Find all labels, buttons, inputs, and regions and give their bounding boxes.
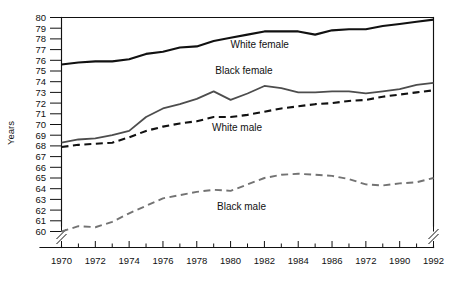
x-tick-label: 1992 (423, 255, 444, 266)
y-axis-tick-marks (50, 18, 62, 232)
x-tick-label: 1982 (254, 255, 275, 266)
series-line-white-male (62, 90, 434, 147)
series-inline-labels: White femaleBlack femaleWhite maleBlack … (212, 39, 289, 212)
y-tick-label: 61 (35, 215, 46, 226)
series-label-white-male: White male (212, 122, 262, 133)
series-line-black-female (62, 83, 434, 143)
y-tick-label: 64 (35, 183, 46, 194)
y-tick-label: 77 (35, 44, 46, 55)
y-tick-label: 60 (35, 226, 46, 237)
series-label-black-male: Black male (217, 201, 266, 212)
x-axis-tick-marks (62, 241, 434, 248)
x-tick-label: 1976 (152, 255, 173, 266)
x-tick-label: 1972 (85, 255, 106, 266)
y-tick-label: 66 (35, 162, 46, 173)
y-tick-label: 79 (35, 23, 46, 34)
chart-canvas: 6061626364656667686970717273747576777879… (0, 0, 461, 283)
series-label-white-female: White female (231, 39, 290, 50)
y-tick-label: 80 (35, 12, 46, 23)
y-axis-title: Years (5, 121, 16, 145)
y-tick-label: 76 (35, 55, 46, 66)
x-tick-label: 1970 (51, 255, 72, 266)
x-tick-label: 1990 (389, 255, 410, 266)
x-tick-label: 1986 (321, 255, 342, 266)
y-tick-label: 68 (35, 140, 46, 151)
x-tick-label: 1978 (186, 255, 207, 266)
y-tick-label: 71 (35, 108, 46, 119)
y-tick-label: 62 (35, 205, 46, 216)
x-tick-label: 1984 (288, 255, 309, 266)
x-tick-label: 1980 (220, 255, 241, 266)
life-expectancy-chart: 6061626364656667686970717273747576777879… (0, 0, 461, 283)
x-tick-label: 1974 (119, 255, 140, 266)
y-tick-label: 63 (35, 194, 46, 205)
axis-titles: Years (5, 121, 16, 145)
x-axis-tick-labels: 1970197219741976197819801982198419861972… (51, 255, 444, 266)
series-label-black-female: Black female (215, 65, 273, 76)
y-tick-label: 73 (35, 87, 46, 98)
x-tick-label: 1972 (355, 255, 376, 266)
y-tick-label: 70 (35, 119, 46, 130)
y-axis-tick-labels: 6061626364656667686970717273747576777879… (35, 12, 46, 237)
y-tick-label: 67 (35, 151, 46, 162)
y-tick-label: 74 (35, 76, 46, 87)
y-tick-label: 65 (35, 172, 46, 183)
y-tick-label: 78 (35, 33, 46, 44)
y-tick-label: 75 (35, 65, 46, 76)
y-tick-label: 72 (35, 98, 46, 109)
y-tick-label: 69 (35, 130, 46, 141)
